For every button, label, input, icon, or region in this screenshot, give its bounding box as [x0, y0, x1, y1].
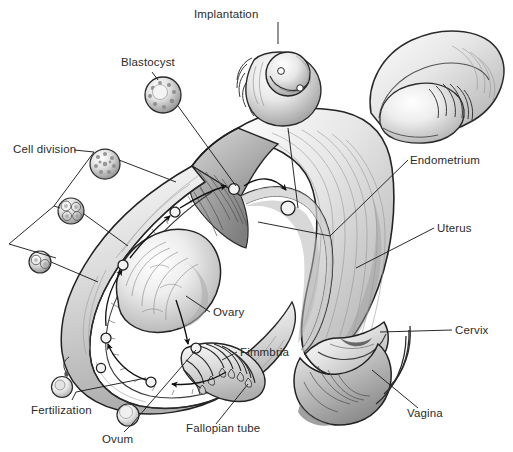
stage-two-cell — [29, 251, 51, 273]
stage-morula — [90, 149, 120, 179]
anatomy-figure: Implantation Blastocyst Cell division En… — [0, 0, 513, 452]
label-ovary: Ovary — [213, 306, 244, 319]
label-fertilization: Fertilization — [31, 404, 92, 417]
label-implantation: Implantation — [194, 8, 258, 21]
label-ovum: Ovum — [102, 433, 133, 446]
stage-blastocyst — [145, 77, 181, 113]
stage-four-cell — [58, 198, 84, 224]
label-vagina: Vagina — [407, 407, 443, 420]
label-cervix: Cervix — [455, 324, 489, 337]
label-uterus: Uterus — [437, 222, 472, 235]
label-endometrium: Endometrium — [410, 154, 480, 167]
label-fimmbria: Fimmbria — [240, 346, 289, 359]
stage-ovum — [117, 404, 139, 426]
label-blastocyst: Blastocyst — [121, 56, 175, 69]
label-fallopian-tube: Fallopian tube — [186, 422, 260, 435]
label-cell-division: Cell division — [13, 143, 76, 156]
